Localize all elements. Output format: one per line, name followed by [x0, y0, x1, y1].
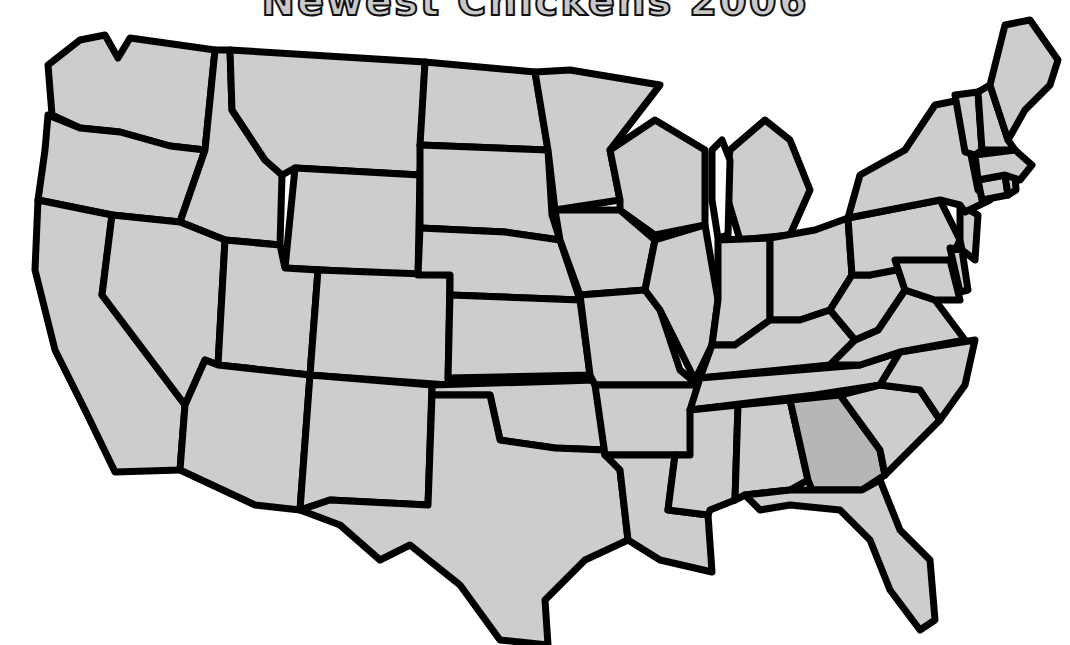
state-kansas[interactable] [448, 295, 590, 378]
state-arkansas[interactable] [595, 385, 698, 455]
state-michigan[interactable] [725, 120, 810, 240]
state-massachusetts[interactable] [975, 150, 1032, 180]
lake-michigan [712, 140, 730, 238]
state-wyoming[interactable] [285, 168, 420, 275]
us-map [0, 0, 1070, 645]
state-north-dakota[interactable] [420, 62, 548, 150]
state-colorado[interactable] [310, 270, 450, 385]
state-arizona[interactable] [180, 360, 310, 510]
state-maine[interactable] [990, 20, 1058, 140]
state-new-mexico[interactable] [300, 375, 432, 510]
state-montana[interactable] [230, 50, 425, 175]
state-florida[interactable] [745, 480, 935, 630]
